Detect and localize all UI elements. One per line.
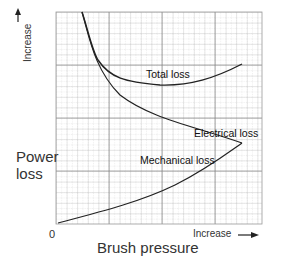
total-loss-label: Total loss — [146, 68, 190, 80]
y-increase-arrow-icon — [15, 8, 21, 22]
x-increase-arrow-icon — [238, 232, 259, 238]
x-increase-label: Increase — [193, 228, 231, 239]
mechanical-loss-label: Mechanical loss — [140, 154, 215, 166]
electrical-loss-label: Electrical loss — [194, 127, 258, 139]
y-increase-label: Increase — [22, 24, 33, 62]
y-axis-label-line2: loss — [16, 165, 59, 182]
y-axis-label: Power loss — [16, 148, 59, 182]
origin-label: 0 — [49, 228, 55, 240]
x-axis-label: Brush pressure — [97, 239, 199, 256]
y-axis-label-line1: Power — [16, 148, 59, 165]
